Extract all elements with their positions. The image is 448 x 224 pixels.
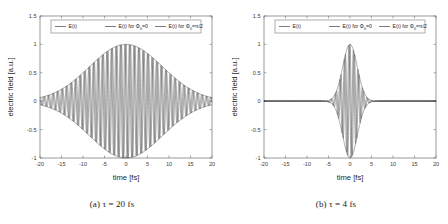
x-tick-label: -5 — [326, 161, 331, 167]
y-tick-label: 0 — [257, 98, 260, 104]
plot-b-svg: -20-15-10-505101520-1-0.500.511.5time [f… — [224, 0, 448, 196]
x-tick-label: -15 — [57, 161, 65, 167]
x-tick-label: 5 — [370, 161, 373, 167]
plot-b: -20-15-10-505101520-1-0.500.511.5time [f… — [224, 0, 448, 196]
y-tick-label: 0.5 — [29, 70, 37, 76]
x-tick-label: 15 — [411, 161, 417, 167]
x-tick-label: 5 — [146, 161, 149, 167]
x-tick-label: 20 — [433, 161, 439, 167]
caption-a: (a) τ = 20 fs — [0, 196, 224, 224]
y-tick-label: 0.5 — [253, 70, 261, 76]
y-tick-label: -1 — [256, 155, 261, 161]
x-tick-label: 20 — [209, 161, 215, 167]
x-tick-label: -5 — [102, 161, 107, 167]
x-tick-label: -20 — [260, 161, 268, 167]
y-tick-label: 0 — [33, 98, 36, 104]
x-tick-label: -10 — [303, 161, 311, 167]
y-axis-label: electric field [a.u.] — [230, 57, 239, 116]
legend-label: E(t) — [69, 23, 78, 29]
y-tick-label: -0.5 — [27, 127, 37, 133]
y-axis-label: electric field [a.u.] — [6, 57, 15, 116]
legend-label: E(t) — [293, 23, 302, 29]
x-tick-label: 0 — [124, 161, 127, 167]
x-tick-label: 10 — [166, 161, 172, 167]
x-tick-label: -15 — [281, 161, 289, 167]
field-curve — [40, 44, 212, 158]
x-tick-label: 15 — [187, 161, 193, 167]
x-axis-label: time [fs] — [113, 173, 140, 182]
panel-a: -20-15-10-505101520-1-0.500.511.5time [f… — [0, 0, 224, 224]
x-tick-label: 0 — [348, 161, 351, 167]
y-tick-label: 1.5 — [29, 13, 37, 19]
y-tick-label: 1.5 — [253, 13, 261, 19]
y-tick-label: -0.5 — [251, 127, 261, 133]
x-tick-label: -10 — [79, 161, 87, 167]
x-axis-label: time [fs] — [337, 173, 364, 182]
y-tick-label: -1 — [32, 155, 37, 161]
x-tick-label: -20 — [36, 161, 44, 167]
plot-a: -20-15-10-505101520-1-0.500.511.5time [f… — [0, 0, 224, 196]
field-curve — [264, 45, 436, 157]
y-tick-label: 1 — [257, 41, 260, 47]
figure-two-panel-pulse-plots: -20-15-10-505101520-1-0.500.511.5time [f… — [0, 0, 448, 224]
caption-b: (b) τ = 4 fs — [224, 196, 448, 224]
y-tick-label: 1 — [33, 41, 36, 47]
x-tick-label: 10 — [390, 161, 396, 167]
plot-a-svg: -20-15-10-505101520-1-0.500.511.5time [f… — [0, 0, 224, 196]
panel-b: -20-15-10-505101520-1-0.500.511.5time [f… — [224, 0, 448, 224]
